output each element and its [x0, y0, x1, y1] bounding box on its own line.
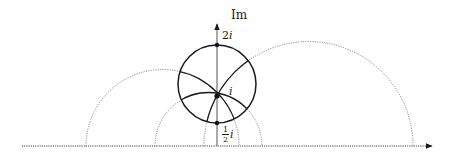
label-half-i: 12i [222, 125, 234, 144]
dotted-geodesics [86, 42, 413, 146]
label-im-axis: Im [231, 9, 247, 21]
point-2i [215, 43, 219, 47]
geodesic-arc-middle [155, 93, 262, 147]
diagram-stage: Im 2i i 12i [0, 0, 452, 156]
solid-geodesic-segments [86, 42, 413, 146]
label-i: i [229, 86, 233, 97]
geodesic-arc-right [204, 42, 413, 146]
geodesic-arc-left [86, 70, 239, 146]
label-2i: 2i [222, 30, 233, 41]
point-i [214, 93, 219, 98]
point-half-i [215, 121, 219, 125]
